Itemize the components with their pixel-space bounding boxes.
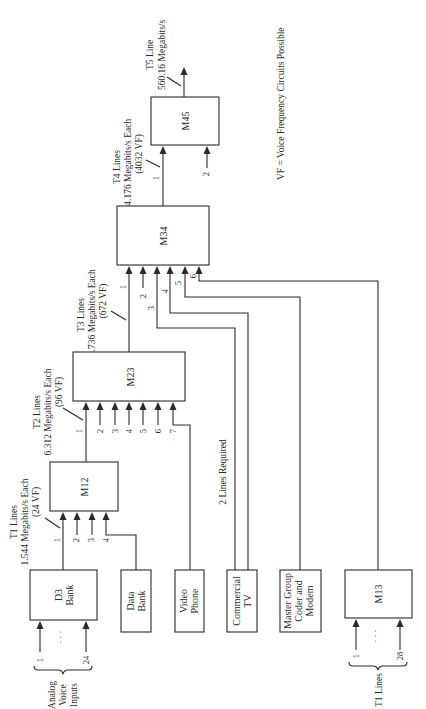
arrowhead-icon [182,266,189,274]
svg-text:24: 24 [81,655,91,664]
arrowhead-icon [353,619,360,627]
m12-block: M12 [50,462,118,511]
arrowhead-icon [97,402,104,410]
t1-pointer [45,518,60,528]
svg-text:(96 VF): (96 VF) [54,377,65,407]
t4-annotation: T4 Lines 274.176 Megabits/s Each (4032 V… [112,119,145,216]
svg-text:44.736 Megabits/s Each: 44.736 Megabits/s Each [87,269,97,361]
vf-legend: VF = Voice Frequency Circuits Possible [276,27,286,180]
m23-block: M23 [73,352,185,401]
svg-text:T1 Lines: T1 Lines [9,505,19,539]
svg-text:560.16 Megabits/s: 560.16 Megabits/s [157,20,167,90]
svg-text:4: 4 [101,537,111,542]
analog-brace [34,666,92,674]
arrowhead-icon [154,266,161,274]
m13-label: M13 [373,585,384,604]
arrowhead-icon [126,266,133,274]
m45-block: M45 [151,97,219,145]
svg-text:Master Group: Master Group [282,573,293,629]
svg-text:Voice: Voice [58,684,68,705]
commercial-tv-line-1 [157,272,235,570]
svg-text:T4 Lines: T4 Lines [112,150,122,184]
m13-line [199,272,378,570]
commercial-tv-block: Commercial TV [227,570,257,632]
t1-lines-brace [349,662,407,670]
arrowhead-icon [397,619,404,627]
master-group-coder-modem-block: Master Group Coder and Modem [280,570,321,632]
svg-text:1: 1 [35,658,45,662]
svg-text:Phone: Phone [189,588,200,614]
svg-text:(4032 VF): (4032 VF) [134,134,145,174]
svg-text:2: 2 [201,172,211,176]
svg-text:5: 5 [138,429,148,433]
svg-text:Coder and: Coder and [293,580,304,621]
svg-text:D3: D3 [53,589,64,601]
arrowhead-icon [89,512,96,520]
svg-text:2: 2 [95,429,105,433]
svg-text:5: 5 [173,281,183,285]
arrowhead-icon [140,266,147,274]
arrowhead-icon [112,402,119,410]
svg-text:Analog: Analog [47,681,57,709]
arrowhead-icon [160,146,167,154]
t2-pointer [63,408,83,420]
svg-text:274.176 Megabits/s Each: 274.176 Megabits/s Each [123,119,133,216]
ellipsis: · · · [370,630,380,643]
svg-text:1: 1 [118,285,128,289]
svg-text:(672 VF): (672 VF) [98,284,109,319]
svg-text:TV: TV [242,594,253,608]
t5-annotation: T5 Line 560.16 Megabits/s [145,20,167,90]
svg-text:6: 6 [188,274,198,278]
svg-text:2: 2 [71,538,81,542]
arrowhead-icon [140,402,147,410]
svg-text:Video: Video [178,589,189,613]
t1-annotation: T1 Lines 1.544 Megabits/s Each (24 VF) [9,478,42,565]
d3-bank-block: D3 Bank [30,570,97,620]
t5-arrowhead-icon [181,67,188,75]
svg-text:4: 4 [124,428,134,433]
svg-text:Inputs: Inputs [69,683,79,707]
video-phone-block: Video Phone [175,570,204,632]
t4-pointer [146,160,160,167]
arrowhead-icon [204,146,211,154]
m34-block: M34 [117,206,209,265]
svg-text:6.312 Megabits/s Each: 6.312 Megabits/s Each [43,368,53,455]
arrowhead-icon [83,402,90,410]
svg-text:3: 3 [86,538,96,542]
svg-text:Commercial: Commercial [231,576,242,626]
svg-text:T5 Line: T5 Line [145,40,155,70]
t1-lines-label: T1 Lines [374,673,384,707]
arrowhead-icon [167,266,174,274]
svg-text:T2 Lines: T2 Lines [32,395,42,429]
svg-text:Modem: Modem [304,585,315,616]
svg-text:1: 1 [351,654,361,658]
svg-text:1: 1 [52,538,62,542]
m13-block: M13 [345,570,412,618]
arrowhead-icon [126,402,133,410]
svg-text:3: 3 [146,306,156,310]
svg-text:(24 VF): (24 VF) [31,487,42,517]
arrowhead-icon [170,402,177,410]
master-group-line [185,272,300,570]
svg-text:Bank: Bank [64,584,75,605]
svg-text:3: 3 [110,429,120,433]
arrowhead-icon [74,512,81,520]
arrowhead-icon [155,402,162,410]
t2-annotation: T2 Lines 6.312 Megabits/s Each (96 VF) [32,368,65,455]
svg-text:Data: Data [125,591,136,610]
arrowhead-icon [60,512,67,520]
m34-label: M34 [158,227,169,246]
arrowhead-icon [103,512,110,520]
data-bank-line [106,518,136,570]
commercial-tv-line-2 [170,272,248,570]
data-bank-block: Data Bank [121,570,151,632]
ellipsis: · · · [55,631,65,644]
t5-pointer [167,77,181,86]
analog-voice-inputs-label: Analog Voice Inputs [47,681,79,709]
svg-text:4: 4 [160,288,170,293]
svg-text:Bank: Bank [136,590,147,611]
t3-pointer [111,311,126,320]
svg-text:2: 2 [138,294,148,298]
m45-label: M45 [180,112,191,131]
svg-text:6: 6 [153,429,163,433]
